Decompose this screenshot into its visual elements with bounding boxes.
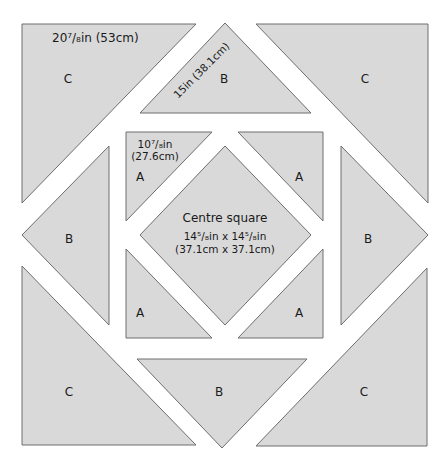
piece-label: C	[65, 385, 73, 399]
piece-label: A	[295, 170, 304, 184]
piece-label: B	[215, 385, 223, 399]
piece-label: B	[220, 72, 228, 86]
dimension-label-a-line2: (27.6cm)	[131, 150, 179, 162]
piece-label: A	[136, 170, 145, 184]
dimension-label-a-line1: 10⁷/₈in	[138, 138, 173, 150]
centre-title: Centre square	[183, 211, 268, 225]
dimension-label-c: 20⁷/₈in (53cm)	[52, 31, 139, 45]
piece-label: B	[364, 232, 372, 246]
quilt-diagram: 20⁷/₈in (53cm) C 15in (38.1cm) B C 10⁷/₈…	[0, 0, 447, 467]
piece-label: A	[295, 306, 304, 320]
centre-dimension-line2: (37.1cm x 37.1cm)	[175, 243, 275, 255]
piece-label: B	[65, 232, 73, 246]
piece-label: C	[361, 72, 369, 86]
piece-label: C	[64, 72, 72, 86]
centre-dimension-line1: 14⁵/₈in x 14⁵/₈in	[184, 230, 267, 242]
piece-label: A	[136, 306, 145, 320]
piece-label: C	[360, 385, 368, 399]
